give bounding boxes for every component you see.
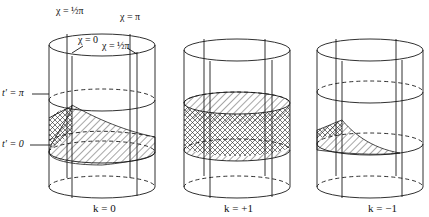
label-chi-pi: χ = π (119, 11, 140, 22)
caption-k-minus-one: k = −1 (368, 202, 397, 214)
einstein-static-universe-diagram: χ = ½π χ = π χ = 0 χ = ½π t′ = π t′ = 0 … (0, 0, 429, 217)
label-chi-zero: χ = 0 (77, 34, 98, 45)
cylinder-k-minus-one: k = −1 (317, 39, 423, 214)
cylinder-k-zero: χ = ½π χ = π χ = 0 χ = ½π t′ = π t′ = 0 … (2, 5, 155, 214)
label-t-pi: t′ = π (2, 87, 25, 98)
label-chi-half-pi-top: χ = ½π (55, 5, 84, 16)
label-t-zero: t′ = 0 (2, 138, 24, 149)
label-chi-half-pi-inner: χ = ½π (101, 40, 130, 51)
caption-k-zero: k = 0 (93, 202, 116, 214)
cylinder-k-plus-one: k = +1 (184, 39, 290, 214)
caption-k-plus-one: k = +1 (224, 202, 253, 214)
